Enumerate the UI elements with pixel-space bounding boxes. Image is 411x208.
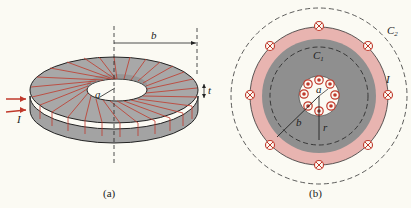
figure-a-toroid: b a t I (a)	[6, 26, 212, 200]
label-t: t	[208, 84, 212, 96]
caption-a: (a)	[103, 187, 116, 200]
label-b: b	[151, 29, 157, 41]
label-a: a	[95, 88, 101, 100]
label-current-I: I	[385, 73, 391, 85]
label-C2: C2	[387, 24, 398, 38]
label-r: r	[323, 121, 328, 133]
toroid-diagram: b a t I (a)	[0, 0, 411, 208]
figure-b-cross-section: a b r C1 C2 I (b)	[231, 8, 407, 200]
caption-b: (b)	[309, 187, 322, 200]
label-b: b	[296, 116, 302, 128]
label-current-I: I	[16, 113, 22, 125]
label-a: a	[316, 83, 322, 95]
